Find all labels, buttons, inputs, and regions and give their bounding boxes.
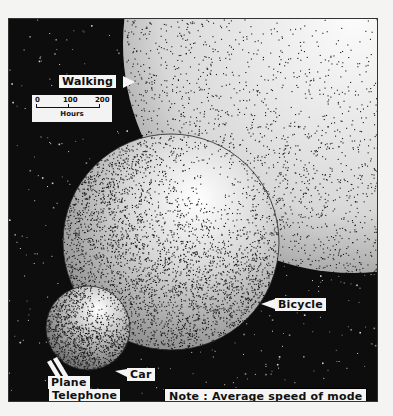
stipple-dot [146,237,147,238]
stipple-dot [49,326,50,327]
stipple-dot [209,266,210,267]
stipple-dot [273,120,274,121]
stipple-dot [348,265,349,266]
stipple-dot [257,157,258,158]
stipple-dot [210,74,211,75]
stipple-dot [136,271,137,272]
stipple-dot [160,251,161,252]
stipple-dot [191,305,192,306]
stipple-dot [342,238,343,239]
stipple-dot [251,305,252,306]
stipple-dot [206,133,207,134]
stipple-dot [152,265,153,266]
stipple-dot [121,237,122,238]
stipple-dot [188,322,189,323]
stipple-dot [118,309,119,310]
stipple-dot [154,334,155,335]
stipple-dot [165,176,166,177]
stipple-dot [318,46,319,47]
stipple-dot [229,23,230,24]
stipple-dot [193,243,194,244]
stipple-dot [352,271,353,272]
stipple-dot [70,234,71,235]
stipple-dot [98,222,99,223]
stipple-dot [231,164,232,165]
stipple-dot [143,269,144,270]
stipple-dot [128,90,129,91]
stipple-dot [108,324,109,325]
stipple-dot [162,214,163,215]
stipple-dot [157,260,158,261]
stipple-dot [264,229,265,230]
stipple-dot [145,176,146,177]
stipple-dot [83,329,84,330]
stipple-dot [52,314,53,315]
stipple-dot [71,350,72,351]
stipple-dot [166,87,167,88]
stipple-dot [145,210,146,211]
stipple-dot [267,256,268,257]
stipple-dot [213,128,214,129]
stipple-dot [121,274,122,275]
star-dot [51,256,52,257]
stipple-dot [62,337,63,338]
stipple-dot [112,164,113,165]
stipple-dot [213,275,214,276]
stipple-dot [89,331,90,332]
stipple-dot [177,207,178,208]
stipple-dot [167,350,168,351]
stipple-dot [143,120,144,121]
stipple-dot [155,262,156,263]
stipple-dot [159,46,160,47]
stipple-dot [84,366,85,367]
note-label: Note : Average speed of mode [164,388,367,402]
stipple-dot [162,328,163,329]
stipple-dot [188,197,189,198]
stipple-dot [310,80,311,81]
stipple-dot [72,284,73,285]
stipple-dot [195,275,196,276]
stipple-dot [175,119,176,120]
stipple-dot [273,249,274,250]
stipple-dot [200,76,201,77]
stipple-dot [296,241,297,242]
stipple-dot [248,236,249,237]
stipple-dot [177,271,178,272]
stipple-dot [158,347,159,348]
stipple-dot [100,328,101,329]
stipple-dot [168,323,169,324]
stipple-dot [103,357,104,358]
stipple-dot [60,359,61,360]
stipple-dot [211,65,212,66]
stipple-dot [159,165,160,166]
stipple-dot [306,187,307,188]
stipple-dot [129,309,130,310]
stipple-dot [294,165,295,166]
stipple-dot [97,226,98,227]
stipple-dot [287,225,288,226]
stipple-dot [337,190,338,191]
stipple-dot [104,334,105,335]
stipple-dot [122,237,123,238]
stipple-dot [221,304,222,305]
stipple-dot [55,335,56,336]
stipple-dot [144,236,145,237]
star-dot [84,32,85,33]
stipple-dot [116,289,117,290]
stipple-dot [177,294,178,295]
stipple-dot [263,187,264,188]
stipple-dot [79,339,80,340]
stipple-dot [366,117,367,118]
stipple-dot [120,256,121,257]
stipple-dot [141,116,142,117]
stipple-dot [231,155,232,156]
stipple-dot [366,71,367,72]
stipple-dot [240,182,241,183]
stipple-dot [307,136,308,137]
stipple-dot [154,319,155,320]
stipple-dot [281,208,282,209]
stipple-dot [103,324,104,325]
stipple-dot [158,193,159,194]
stipple-dot [62,351,63,352]
stipple-dot [246,307,247,308]
